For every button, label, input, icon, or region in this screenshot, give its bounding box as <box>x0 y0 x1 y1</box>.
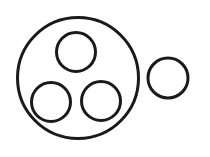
diagram-svg <box>0 0 210 157</box>
diagram-canvas <box>0 0 210 157</box>
